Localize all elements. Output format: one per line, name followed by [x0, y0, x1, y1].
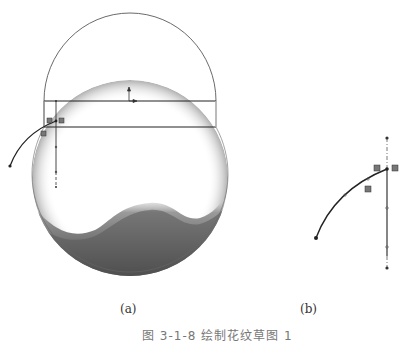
constraint-icon — [59, 118, 64, 123]
constraint-icon — [47, 118, 52, 123]
panel-a-label: (a) — [120, 302, 137, 316]
constraint-icon — [365, 186, 371, 192]
figure-caption: 图 3-1-8 绘制花纹草图 1 — [142, 326, 293, 343]
panel-b — [314, 136, 398, 269]
panel-b-label: (b) — [300, 302, 317, 316]
lower-sphere — [28, 80, 232, 280]
constraint-icon — [374, 165, 380, 171]
centerline-b — [385, 136, 388, 269]
constraint-icon — [392, 165, 398, 171]
pattern-curve-b — [314, 167, 389, 240]
panel-a — [8, 13, 232, 280]
constraint-icon — [41, 131, 46, 136]
